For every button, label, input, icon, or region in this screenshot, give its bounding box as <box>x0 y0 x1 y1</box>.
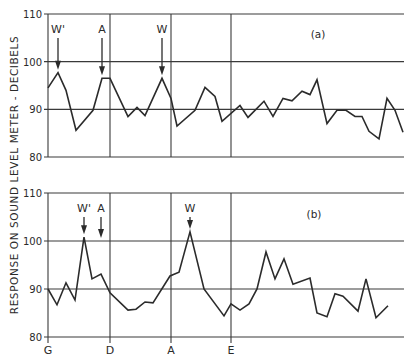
y-tick-label: 90 <box>29 104 42 115</box>
arrowhead-icon <box>98 229 104 238</box>
x-axis-labels: GDAE <box>44 344 235 357</box>
annotation-label: A <box>98 23 106 36</box>
annotation-label: W' <box>77 202 91 215</box>
x-tick-label-a: A <box>167 344 175 357</box>
panel-b: 8090100110(b)W'AW <box>23 188 404 343</box>
y-tick-label: 100 <box>23 57 42 68</box>
annotation-label: A <box>97 202 105 215</box>
figure: 8090100110(a)W'AW 8090100110(b)W'AW RESP… <box>0 0 414 361</box>
arrowhead-icon <box>159 66 165 75</box>
x-tick-label-e: E <box>228 344 235 357</box>
annotation-label: W <box>185 202 196 215</box>
panel-title: (b) <box>307 208 322 220</box>
arrowhead-icon <box>99 66 105 75</box>
data-line <box>48 232 388 318</box>
arrowhead-icon <box>187 220 193 229</box>
panel-a: 8090100110(a)W'AW <box>23 9 404 163</box>
annotation-label: W' <box>51 23 65 36</box>
y-tick-label: 80 <box>29 332 42 343</box>
x-tick-label-d: D <box>106 344 114 357</box>
x-tick-label-g: G <box>44 344 53 357</box>
y-tick-label: 110 <box>23 188 42 199</box>
arrowhead-icon <box>81 225 87 234</box>
data-line <box>48 73 403 139</box>
y-axis-label: RESPONSE ON SOUND LEVEL METER - DECIBELS <box>8 36 20 315</box>
panel-title: (a) <box>311 28 326 40</box>
annotation-label: W <box>157 23 168 36</box>
arrowhead-icon <box>55 61 61 70</box>
y-tick-label: 90 <box>29 284 42 295</box>
y-tick-label: 110 <box>23 9 42 20</box>
y-tick-label: 80 <box>29 152 42 163</box>
y-tick-label: 100 <box>23 236 42 247</box>
